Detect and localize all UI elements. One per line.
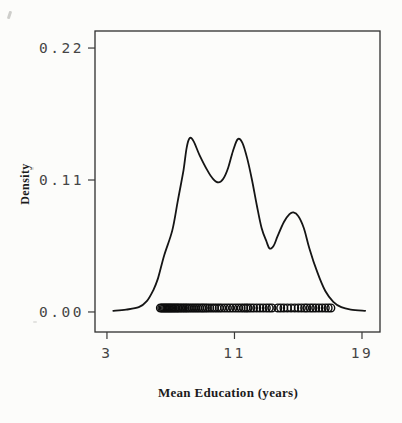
density-curve	[113, 138, 365, 311]
x-tick-label: 3	[101, 345, 112, 361]
y-tick-label: 0.11	[39, 172, 84, 188]
scan-artifact	[31, 167, 34, 170]
density-plot-figure: 0.000.110.2231119 Density Mean Education…	[0, 0, 402, 423]
scan-artifact	[33, 321, 37, 323]
y-tick-label: 0.00	[39, 304, 84, 320]
y-tick-label: 0.22	[39, 40, 84, 56]
x-tick-label: 19	[351, 345, 373, 361]
x-axis-title: Mean Education (years)	[158, 385, 298, 401]
density-chart: 0.000.110.2231119	[0, 0, 402, 423]
x-tick-label: 11	[223, 345, 245, 361]
plot-box	[95, 31, 380, 332]
